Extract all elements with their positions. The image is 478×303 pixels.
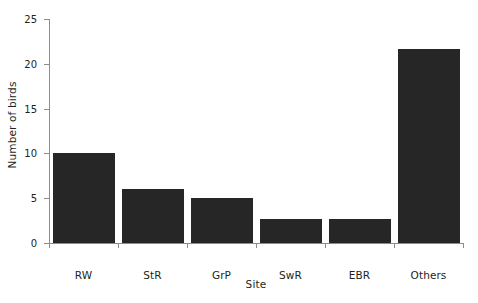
x-axis-tick	[187, 243, 188, 248]
bar-ebr	[329, 219, 391, 243]
y-axis-tick	[44, 198, 49, 199]
y-axis-tick	[44, 153, 49, 154]
y-axis-tick	[44, 19, 49, 20]
x-axis-tick	[394, 243, 395, 248]
y-axis-tick	[44, 64, 49, 65]
y-axis-tick-label: 10	[24, 148, 37, 159]
x-axis-title: Site	[48, 278, 464, 290]
bar-grp	[191, 198, 253, 243]
bar-rw	[53, 153, 115, 243]
y-axis-tick-label: 0	[31, 238, 37, 249]
bar-chart-figure: Number of birds 0510152025 RWStRGrPSwREB…	[0, 0, 478, 303]
y-axis-line	[49, 19, 50, 244]
x-axis-tick	[118, 243, 119, 248]
plot-area: 0510152025 RWStRGrPSwREBROthers	[49, 19, 463, 243]
y-axis-title-wrapper: Number of birds	[2, 0, 22, 250]
y-axis-title: Number of birds	[2, 0, 22, 250]
x-axis-tick	[256, 243, 257, 248]
bar-others	[398, 49, 460, 243]
x-axis-tick	[325, 243, 326, 248]
y-axis-tick-label: 20	[24, 58, 37, 69]
y-axis-tick	[44, 109, 49, 110]
y-axis-tick-label: 15	[24, 103, 37, 114]
bar-swr	[260, 219, 322, 243]
x-axis-tick	[463, 243, 464, 248]
y-axis-tick-label: 5	[31, 193, 37, 204]
y-axis-tick-label: 25	[24, 14, 37, 25]
bar-str	[122, 189, 184, 243]
x-axis-tick	[49, 243, 50, 248]
